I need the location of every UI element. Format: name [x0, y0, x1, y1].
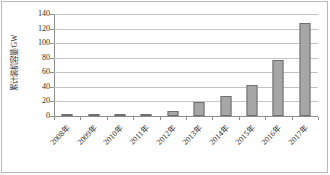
x-axis-tick-mark	[318, 117, 319, 120]
y-axis-tick-label: 20	[26, 97, 50, 105]
plot-area	[54, 14, 318, 116]
x-axis-label-slot: 2011年	[133, 120, 159, 168]
bar-slot	[107, 14, 133, 116]
x-axis-label-slot: 2017年	[292, 120, 318, 168]
y-axis-tick-mark	[50, 87, 54, 88]
bar[interactable]	[273, 60, 284, 116]
x-axis-label-slot: 2014年	[212, 120, 238, 168]
x-axis-label-slot: 2010年	[107, 120, 133, 168]
x-axis-tick-mark	[186, 117, 187, 120]
bar-slot	[54, 14, 80, 116]
x-axis-tick-mark	[133, 117, 134, 120]
x-axis-label-slot: 2016年	[265, 120, 291, 168]
x-axis-label-slot: 2015年	[239, 120, 265, 168]
bar-slot	[186, 14, 212, 116]
bar[interactable]	[194, 102, 205, 116]
bar-chart-figure: 累计装机容量/GW 020406080100120140 2008年2009年2…	[0, 0, 330, 175]
y-axis-tick-label: 140	[26, 10, 50, 18]
x-axis-label-slot: 2012年	[160, 120, 186, 168]
bar[interactable]	[88, 114, 99, 116]
bar-slot	[212, 14, 238, 116]
x-axis-tick-labels: 2008年2009年2010年2011年2012年2013年2014年2015年…	[54, 120, 318, 170]
y-axis-tick-mark	[50, 43, 54, 44]
x-axis-tick-mark	[212, 117, 213, 120]
y-axis-tick-label: 60	[26, 68, 50, 76]
bar[interactable]	[167, 111, 178, 116]
y-axis-tick-label: 40	[26, 83, 50, 91]
x-axis-tick-mark	[160, 117, 161, 120]
bar[interactable]	[114, 114, 125, 116]
bar-slot	[160, 14, 186, 116]
bar[interactable]	[141, 114, 152, 116]
y-axis-tick-label: 0	[26, 112, 50, 120]
y-axis-tick-mark	[50, 101, 54, 102]
y-axis-tick-mark	[50, 72, 54, 73]
x-axis-tick-mark	[239, 117, 240, 120]
bar[interactable]	[246, 85, 257, 116]
y-axis-tick-labels: 020406080100120140	[26, 14, 50, 116]
bar-slot	[265, 14, 291, 116]
y-axis-title: 累计装机容量/GW	[10, 8, 20, 118]
x-axis-label-slot: 2013年	[186, 120, 212, 168]
bar-slot	[133, 14, 159, 116]
bar-slot	[292, 14, 318, 116]
bar-slot	[239, 14, 265, 116]
bar-slot	[80, 14, 106, 116]
y-axis-tick-label: 120	[26, 25, 50, 33]
x-axis-label-slot: 2009年	[80, 120, 106, 168]
x-axis-tick-mark	[54, 117, 55, 120]
y-axis-tick-mark	[50, 58, 54, 59]
bar[interactable]	[220, 96, 231, 116]
bar[interactable]	[299, 23, 310, 116]
y-axis-tick-mark	[50, 29, 54, 30]
bar[interactable]	[62, 114, 73, 116]
bars-container	[54, 14, 318, 116]
x-axis-label-slot: 2008年	[54, 120, 80, 168]
x-axis-tick-mark	[107, 117, 108, 120]
y-axis-tick-label: 100	[26, 39, 50, 47]
x-axis-tick-mark	[265, 117, 266, 120]
y-axis-tick-mark	[50, 14, 54, 15]
x-axis-tick-mark	[80, 117, 81, 120]
y-axis-tick-label: 80	[26, 54, 50, 62]
x-axis-tick-mark	[292, 117, 293, 120]
